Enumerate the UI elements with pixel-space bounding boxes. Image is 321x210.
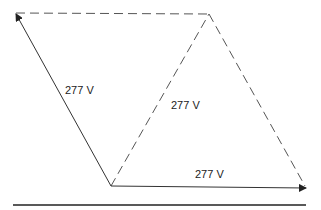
left-phasor-arrow (16, 14, 111, 186)
left-phasor-label: 277 V (65, 84, 94, 96)
dashed-top-line (16, 13, 209, 14)
bottom-phasor-label: 277 V (195, 168, 224, 180)
dashed-right-line (209, 14, 305, 186)
center-label: 277 V (171, 99, 200, 111)
phasor-diagram: 277 V 277 V 277 V (0, 0, 321, 210)
bottom-phasor-arrow (111, 186, 306, 188)
